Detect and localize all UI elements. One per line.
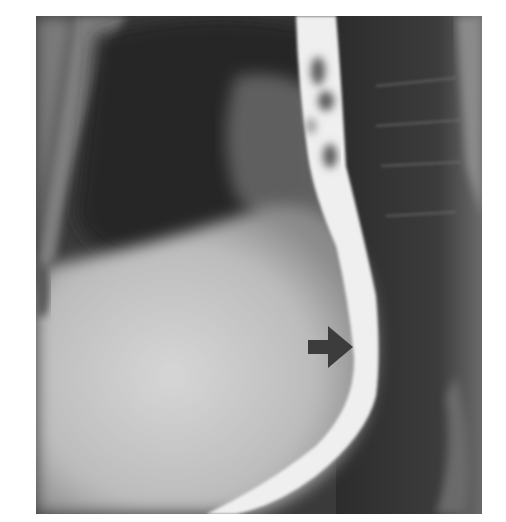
radiograph-image bbox=[36, 16, 482, 514]
